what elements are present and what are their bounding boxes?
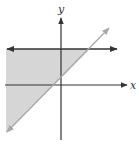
y-axis-label: y bbox=[57, 3, 65, 16]
inequality-graph: x y bbox=[0, 0, 139, 145]
x-axis-label: x bbox=[130, 79, 137, 92]
